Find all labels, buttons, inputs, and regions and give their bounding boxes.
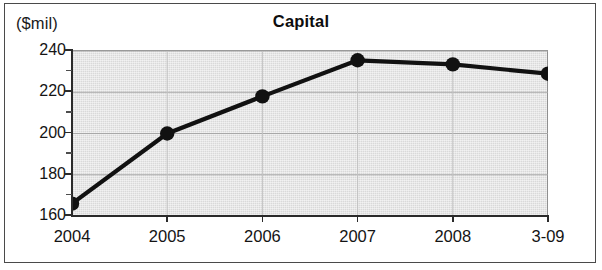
- y-axis-tick-label: 220: [24, 83, 66, 99]
- y-axis-major-tick: [64, 132, 72, 134]
- chart-title: Capital: [0, 12, 602, 31]
- y-axis-tick-label: 180: [24, 166, 66, 182]
- y-axis-minor-tick: [66, 111, 72, 112]
- y-axis-minor-tick: [66, 194, 72, 195]
- line-path-capital: [72, 60, 548, 203]
- y-axis-major-tick: [64, 214, 72, 216]
- x-axis-tick: [262, 215, 264, 222]
- x-axis-tick-label: 3-09: [508, 228, 588, 245]
- y-axis-minor-tick: [66, 70, 72, 71]
- y-axis-tick-label: 200: [24, 125, 66, 141]
- y-axis-tick-label: 160: [24, 207, 66, 223]
- x-axis-tick-label: 2004: [32, 228, 112, 245]
- data-point-marker: [541, 66, 548, 80]
- x-axis-tick: [452, 215, 454, 222]
- data-point-marker: [446, 57, 460, 71]
- x-axis-tick-label: 2005: [127, 228, 207, 245]
- chart-figure: ($mil) Capital 240220200180160 200420052…: [0, 0, 602, 270]
- x-axis-tick-label: 2006: [222, 228, 302, 245]
- y-axis-minor-tick: [66, 152, 72, 153]
- y-axis-major-tick: [64, 90, 72, 92]
- gridlines: [72, 51, 548, 216]
- data-point-marker: [350, 53, 364, 67]
- x-axis-tick: [357, 215, 359, 222]
- plot-area: [72, 50, 548, 215]
- y-axis-major-tick: [64, 49, 72, 51]
- x-axis-tick: [166, 215, 168, 222]
- x-axis-tick-label: 2008: [413, 228, 493, 245]
- data-point-marker: [160, 126, 174, 140]
- x-axis-tick-label: 2007: [318, 228, 398, 245]
- x-axis-tick: [547, 215, 549, 222]
- data-series-capital: [72, 53, 548, 211]
- plot-svg: [72, 51, 548, 216]
- y-axis-tick-label: 240: [24, 42, 66, 58]
- data-point-marker: [255, 89, 269, 103]
- y-axis-major-tick: [64, 173, 72, 175]
- x-axis-line: [71, 215, 549, 217]
